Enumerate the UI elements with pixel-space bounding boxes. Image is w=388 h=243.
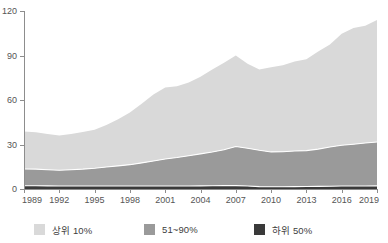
x-tick-label-2004: 2004 — [190, 195, 210, 205]
x-axis-tick-labels: 1989199219951998200120042007201020132016… — [22, 195, 379, 205]
x-tick-label-2019: 2019 — [359, 195, 379, 205]
x-tick-label-2016: 2016 — [332, 195, 352, 205]
legend-swatch-mid — [144, 224, 155, 235]
chart-legend: 상위 10% 51~90% 하위 50% — [0, 216, 388, 243]
legend-label-top10: 상위 10% — [52, 223, 92, 237]
chart-container: 0306090120 19891992199519982001200420072… — [0, 0, 388, 243]
x-tick-label-2010: 2010 — [261, 195, 281, 205]
y-tick-label-120: 120 — [2, 6, 17, 16]
legend-item-mid[interactable]: 51~90% — [144, 224, 254, 235]
y-tick-label-60: 60 — [7, 95, 17, 105]
x-tick-label-2001: 2001 — [155, 195, 175, 205]
legend-label-bottom50: 하위 50% — [272, 223, 312, 237]
y-tick-label-30: 30 — [7, 140, 17, 150]
x-tick-label-1995: 1995 — [85, 195, 105, 205]
x-tick-label-2013: 2013 — [296, 195, 316, 205]
x-tick-label-2007: 2007 — [226, 195, 246, 205]
y-tick-label-0: 0 — [12, 184, 17, 194]
chart-areas — [24, 20, 377, 189]
legend-item-bottom50[interactable]: 하위 50% — [254, 223, 364, 237]
legend-label-mid: 51~90% — [162, 224, 198, 235]
x-tick-label-1989: 1989 — [22, 195, 42, 205]
legend-swatch-top10 — [34, 224, 45, 235]
y-axis-tick-labels: 0306090120 — [2, 6, 17, 194]
legend-swatch-bottom50 — [254, 224, 265, 235]
x-tick-label-1992: 1992 — [49, 195, 69, 205]
legend-item-top10[interactable]: 상위 10% — [34, 223, 144, 237]
x-tick-label-1998: 1998 — [120, 195, 140, 205]
y-tick-label-90: 90 — [7, 51, 17, 61]
stacked-area-chart: 0306090120 19891992199519982001200420072… — [0, 0, 388, 243]
